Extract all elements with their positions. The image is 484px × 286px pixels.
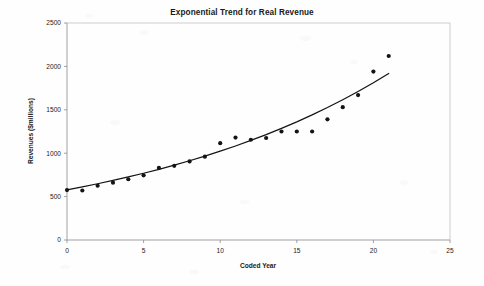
data-point	[187, 159, 191, 163]
data-point	[126, 177, 130, 181]
x-tick-label: 25	[446, 247, 454, 254]
y-tick-label: 1000	[46, 150, 61, 157]
y-axis-ticks: 05001000150020002500	[46, 19, 67, 243]
data-point	[371, 70, 375, 74]
data-point	[356, 93, 360, 97]
data-points-layer	[65, 54, 391, 193]
data-point	[65, 188, 69, 192]
plot-frame	[67, 23, 450, 240]
data-point	[295, 129, 299, 133]
exponential-trend-curve	[67, 74, 389, 190]
x-axis-title: Coded Year	[240, 262, 277, 269]
x-tick-label: 10	[217, 247, 225, 254]
x-tick-label: 0	[65, 247, 69, 254]
y-tick-label: 2000	[46, 63, 61, 70]
data-point	[157, 166, 161, 170]
y-tick-label: 1500	[46, 106, 61, 113]
data-point	[218, 141, 222, 145]
chart-canvas: Exponential Trend for Real Revenue 05001…	[0, 0, 484, 286]
y-tick-label: 500	[50, 193, 61, 200]
data-point	[279, 129, 283, 133]
y-tick-label: 0	[57, 236, 61, 243]
data-point	[111, 181, 115, 185]
x-tick-label: 20	[370, 247, 378, 254]
data-point	[172, 164, 176, 168]
data-point	[142, 173, 146, 177]
x-tick-label: 15	[293, 247, 301, 254]
data-point	[203, 155, 207, 159]
data-point	[310, 129, 314, 133]
data-point	[80, 188, 84, 192]
data-point	[233, 135, 237, 139]
data-point	[249, 138, 253, 142]
chart-figure: Exponential Trend for Real Revenue 05001…	[0, 0, 484, 286]
data-point	[96, 184, 100, 188]
chart-title: Exponential Trend for Real Revenue	[170, 8, 314, 17]
y-tick-label: 2500	[46, 19, 61, 26]
data-point	[387, 54, 391, 58]
x-axis-ticks: 0510152025	[65, 240, 454, 254]
data-point	[341, 105, 345, 109]
data-point	[264, 136, 268, 140]
x-tick-label: 5	[142, 247, 146, 254]
y-axis-title: Revenues ($millions)	[27, 98, 35, 164]
data-point	[325, 117, 329, 121]
